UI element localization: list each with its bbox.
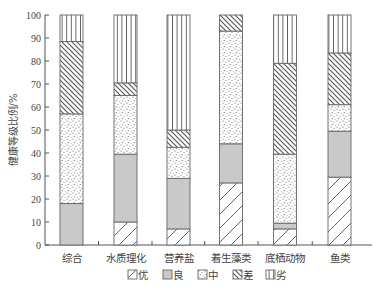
y-axis-label: 健康等级比例/% [7, 94, 19, 167]
legend-label: 中 [208, 269, 218, 281]
legend-swatch-icon [163, 270, 172, 279]
bar-segment [167, 178, 190, 229]
bar-segment [220, 31, 243, 144]
bar-segment [114, 15, 137, 83]
bar-segment [60, 204, 83, 245]
x-category-label: 着生藻类 [211, 252, 252, 264]
bar-segment [328, 15, 351, 53]
bar-segment [114, 222, 137, 245]
legend-swatch-icon [233, 270, 242, 279]
bar-segment [328, 131, 351, 177]
legend: 优良中差劣 [128, 269, 286, 281]
legend-swatch-icon [128, 270, 137, 279]
bar-stack [114, 15, 137, 245]
bar-segment [274, 154, 297, 223]
legend-swatch-icon [198, 270, 207, 279]
bar-stack [220, 15, 243, 245]
y-tick-label: 20 [31, 194, 41, 205]
y-tick-label: 50 [31, 125, 41, 136]
bar-segment [167, 130, 190, 147]
y-tick-label: 10 [31, 217, 41, 228]
y-tick-label: 60 [31, 102, 41, 113]
bar-segment [328, 177, 351, 245]
bar-stack [60, 15, 83, 245]
bar-segment [220, 15, 243, 31]
bar-segment [274, 15, 297, 63]
x-category-label: 综合 [62, 252, 83, 264]
bar-segment [328, 105, 351, 131]
legend-item: 劣 [266, 269, 286, 281]
bar-segment [220, 183, 243, 245]
legend-label: 劣 [276, 269, 286, 281]
bar-stack [167, 15, 190, 245]
legend-item: 良 [163, 269, 183, 281]
bar-segment [274, 223, 297, 229]
x-category-label: 底栖动物 [265, 252, 305, 264]
bar-segment [114, 96, 137, 155]
bar-segment [167, 229, 190, 245]
legend-swatch-icon [266, 270, 275, 279]
y-tick-label: 100 [26, 10, 41, 21]
bar-segment [274, 63, 297, 154]
stacked-bar-chart: 0102030405060708090100 综合水质理化营养盐着生藻类底栖动物… [0, 0, 374, 295]
bar-segment [274, 229, 297, 245]
legend-item: 中 [198, 269, 218, 281]
x-category-label: 鱼类 [330, 252, 351, 264]
bar-segment [220, 144, 243, 183]
bars [60, 15, 351, 245]
y-tick-label: 40 [31, 148, 41, 159]
x-category-label: 水质理化 [106, 252, 147, 264]
bar-segment [60, 114, 83, 204]
legend-label: 优 [138, 269, 148, 281]
bar-stack [328, 15, 351, 245]
bar-segment [167, 147, 190, 178]
legend-label: 良 [173, 269, 183, 281]
y-tick-label: 70 [31, 79, 41, 90]
legend-label: 差 [243, 269, 253, 281]
legend-item: 差 [233, 269, 253, 281]
y-tick-label: 0 [36, 240, 41, 251]
x-axis: 综合水质理化营养盐着生藻类底栖动物鱼类 [45, 241, 372, 264]
bar-segment [167, 15, 190, 130]
x-category-label: 营养盐 [164, 252, 194, 264]
y-tick-label: 80 [31, 56, 41, 67]
bar-segment [60, 15, 83, 41]
bar-stack [274, 15, 297, 245]
bar-segment [114, 83, 137, 96]
legend-item: 优 [128, 269, 148, 281]
bar-segment [328, 53, 351, 105]
y-tick-label: 90 [31, 33, 41, 44]
bar-segment [60, 41, 83, 113]
y-axis: 0102030405060708090100 [26, 10, 49, 251]
y-tick-label: 30 [31, 171, 41, 182]
bar-segment [114, 154, 137, 222]
y-axis-title: 健康等级比例/% [7, 94, 19, 167]
